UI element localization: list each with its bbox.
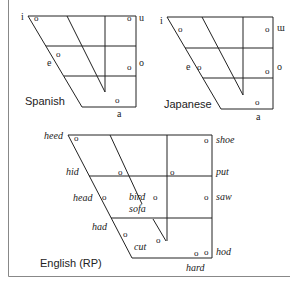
spanish-marker-e: o bbox=[56, 49, 61, 59]
english-marker-bird: o bbox=[153, 192, 158, 202]
spanish-marker-i: o bbox=[34, 13, 39, 23]
japanese-label-i: i bbox=[160, 15, 163, 26]
japanese-label-e: e bbox=[186, 61, 191, 72]
spanish-inner-slant bbox=[67, 16, 105, 92]
spanish-title: Spanish bbox=[25, 95, 65, 107]
english-label-head: head bbox=[73, 192, 93, 203]
spanish-label-e: e bbox=[47, 57, 52, 68]
english-label-hid: hid bbox=[66, 166, 80, 177]
japanese-marker-i: o bbox=[178, 24, 183, 34]
english-label-put: put bbox=[215, 166, 229, 177]
spanish-label-u: u bbox=[139, 12, 144, 23]
spanish-label-i: i bbox=[21, 11, 24, 22]
english-marker-cut: o bbox=[156, 235, 161, 245]
japanese-title: Japanese bbox=[164, 98, 212, 110]
english-marker-hid: o bbox=[118, 167, 123, 177]
spanish-trapezoid bbox=[28, 16, 136, 107]
english-label-heed: heed bbox=[44, 130, 64, 141]
english-label-shoe: shoe bbox=[216, 134, 235, 145]
english-label-hard: hard bbox=[186, 262, 206, 273]
spanish-marker-o: o bbox=[127, 62, 132, 72]
english-label-saw: saw bbox=[216, 191, 232, 202]
vowel-charts-figure: i o o u o e o o o a Spanish i o o ɯ e o … bbox=[0, 0, 290, 292]
english-label-sofa: sofa bbox=[129, 203, 146, 214]
english-marker-hod: o bbox=[204, 247, 209, 257]
english-label-bird: bird bbox=[129, 191, 146, 202]
english-marker-shoe: o bbox=[204, 135, 209, 145]
japanese-inner-slant bbox=[202, 17, 243, 95]
english-marker-hard: o bbox=[194, 248, 199, 258]
english-marker-head: o bbox=[102, 192, 107, 202]
japanese-marker-a: o bbox=[255, 97, 260, 107]
english-title: English (RP) bbox=[40, 257, 102, 269]
japanese-label-a: a bbox=[256, 111, 261, 122]
japanese-label-o: o bbox=[277, 61, 282, 72]
english-marker-had: o bbox=[123, 229, 128, 239]
spanish-vowel-chart bbox=[28, 16, 136, 107]
spanish-marker-u: o bbox=[127, 13, 132, 23]
english-marker-heed: o bbox=[74, 133, 79, 143]
japanese-marker-e: o bbox=[197, 62, 202, 72]
japanese-label-u: ɯ bbox=[277, 22, 285, 33]
japanese-marker-o: o bbox=[265, 66, 270, 76]
spanish-label-a: a bbox=[117, 108, 122, 119]
english-label-hod: hod bbox=[216, 246, 232, 257]
english-marker-saw: o bbox=[204, 192, 209, 202]
japanese-trapezoid bbox=[167, 17, 273, 109]
english-label-had: had bbox=[92, 221, 108, 232]
english-label-cut: cut bbox=[134, 241, 146, 252]
spanish-label-o: o bbox=[139, 57, 144, 68]
japanese-vowel-chart bbox=[167, 17, 273, 109]
english-marker-put: o bbox=[170, 167, 175, 177]
japanese-marker-u: o bbox=[265, 24, 270, 34]
spanish-marker-a: o bbox=[115, 95, 120, 105]
